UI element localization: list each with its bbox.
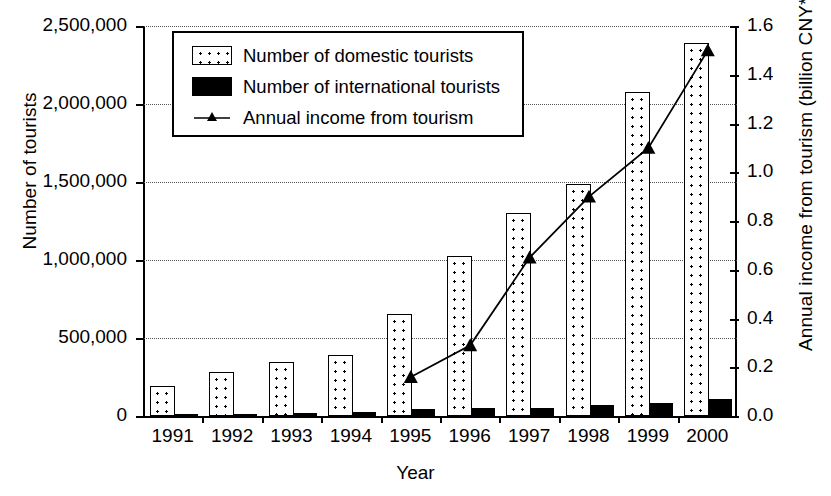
y-axis-right-title: Annual income from tourism (billion CNY*…: [795, 0, 817, 361]
income-marker: [404, 370, 418, 383]
right-tick-label: 0.4: [747, 307, 773, 329]
x-tick-label: 1997: [499, 425, 558, 447]
legend-label-domestic: Number of domestic tourists: [243, 45, 473, 67]
right-tick-label: 0.6: [747, 258, 773, 280]
left-tick-label: 1,000,000: [0, 248, 127, 270]
right-tick-label: 0.8: [747, 209, 773, 231]
x-tick-label: 1993: [262, 425, 321, 447]
left-tick-label: 500,000: [0, 326, 127, 348]
right-tick-label: 1.6: [747, 14, 773, 36]
right-tick-label: 1.2: [747, 112, 773, 134]
x-tick-label: 1996: [440, 425, 499, 447]
legend-item-international: Number of international tourists: [174, 71, 522, 102]
x-axis-title: Year: [0, 462, 831, 484]
x-tick-label: 1999: [618, 425, 677, 447]
right-tick-label: 1.0: [747, 160, 773, 182]
income-marker: [641, 141, 655, 154]
legend-swatch-line-triangle-icon: [192, 108, 232, 127]
left-tick-label: 2,000,000: [0, 92, 127, 114]
x-tick-label: 1991: [143, 425, 202, 447]
legend: Number of domestic tourists Number of in…: [172, 31, 524, 137]
x-tick-label: 1994: [321, 425, 380, 447]
x-tick-label: 1995: [381, 425, 440, 447]
right-tick-label: 0.0: [747, 404, 773, 426]
income-marker: [701, 43, 715, 56]
right-tick-label: 0.2: [747, 355, 773, 377]
chart-figure: Number of tourists Annual income from to…: [0, 0, 831, 496]
legend-swatch-black-icon: [192, 77, 232, 96]
x-tick-label: 1998: [559, 425, 618, 447]
left-tick-label: 1,500,000: [0, 170, 127, 192]
legend-item-income: Annual income from tourism: [174, 102, 522, 133]
x-tick-label: 1992: [202, 425, 261, 447]
right-tick-label: 1.4: [747, 63, 773, 85]
legend-item-domestic: Number of domestic tourists: [174, 40, 522, 71]
left-tick-label: 0: [0, 404, 127, 426]
income-marker: [463, 338, 477, 351]
legend-swatch-dotted-icon: [192, 46, 232, 65]
legend-label-income: Annual income from tourism: [243, 107, 473, 129]
x-tick-label: 2000: [678, 425, 737, 447]
left-tick-label: 2,500,000: [0, 14, 127, 36]
legend-label-international: Number of international tourists: [243, 76, 500, 98]
